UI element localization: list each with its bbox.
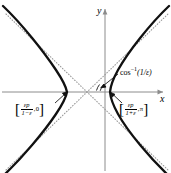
right-vertex-numerator: εp xyxy=(127,102,135,109)
left-vertex-numerator: εp xyxy=(23,102,31,109)
left-vertex-label: [ εp 1−ε , 0 ] xyxy=(15,102,44,117)
angle-function-name: cos xyxy=(120,68,131,77)
hyperbola-right-branch xyxy=(110,6,169,173)
y-axis-arrowhead xyxy=(103,9,108,15)
right-bracket-open: [ xyxy=(119,104,124,115)
y-axis-label: y xyxy=(97,6,101,16)
right-vertex-label: [ εp 1+ε , π ] xyxy=(119,102,148,117)
right-bracket-close: ] xyxy=(143,104,148,115)
left-vertex-denominator: 1−ε xyxy=(21,109,33,117)
figure-canvas xyxy=(0,0,171,173)
left-vertex-fraction: εp 1−ε xyxy=(21,102,33,117)
x-axis-label: x xyxy=(160,94,164,104)
hyperbola-figure: y x [ εp 1−ε , 0 ] [ εp 1+ε , π ] cos−1(… xyxy=(0,0,171,173)
left-bracket-close: ] xyxy=(39,104,44,115)
right-vertex-fraction: εp 1+ε xyxy=(125,102,137,117)
hyperbola-curves xyxy=(3,6,169,173)
right-vertex-denominator: 1+ε xyxy=(125,109,137,117)
asymptote-angle-label: cos−1(1/ε) xyxy=(120,66,152,77)
hyperbola-left-branch xyxy=(3,6,67,173)
left-bracket-open: [ xyxy=(15,104,20,115)
angle-argument: (1/ε) xyxy=(137,68,152,77)
angle-arc-outer xyxy=(97,85,100,91)
